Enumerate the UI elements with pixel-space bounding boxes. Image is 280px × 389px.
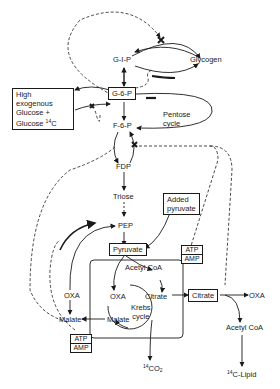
node-oxa-inner: OXA <box>110 293 126 301</box>
node-glycogen: Glycogen <box>190 56 222 64</box>
node-krebs-cycle: Krebscycle <box>131 303 151 321</box>
node-oxa-right: OXA <box>249 292 265 300</box>
atp-amp-lower: ATP AMP <box>70 334 92 353</box>
node-oxa-outer: OXA <box>64 292 80 300</box>
node-lipid: 14C-Lipid <box>227 368 256 379</box>
added-pyruvate-line-1: Added <box>167 195 189 204</box>
node-g6p-box: G-6-P <box>108 87 136 100</box>
node-pentose-cycle: Pentosecycle <box>163 110 191 128</box>
glucose-line-2: Glucose + <box>16 108 50 117</box>
node-co2: 14CO2 <box>143 362 163 374</box>
node-malate-outer: Malate <box>59 316 82 324</box>
node-pyruvate: Pyruvate <box>110 244 146 255</box>
glucose-line-1: High exogenous <box>16 90 53 108</box>
node-g1p: G-I-P <box>113 56 131 64</box>
node-acetyl-coa-mito: Acetyl CoA <box>125 264 162 272</box>
atp-amp-upper: ATP AMP <box>181 245 203 264</box>
node-malate-inner: Malate <box>107 316 130 324</box>
node-pep: PEP <box>118 222 133 230</box>
node-f6p: F-6-P <box>113 122 132 130</box>
node-triose: Triose <box>113 193 134 201</box>
added-pyruvate-line-2: pyruvate <box>167 204 196 213</box>
added-pyruvate-box: Added pyruvate <box>163 193 200 215</box>
node-citrate-cyto: Citrate <box>189 290 217 301</box>
node-g6p: G-6-P <box>109 88 135 99</box>
glucose-line-3: Glucose <box>16 119 44 128</box>
glucose-isotope-c: C <box>51 119 56 128</box>
node-fdp: FDP <box>116 163 131 171</box>
glucose-box: High exogenous Glucose + Glucose 14C <box>12 88 74 130</box>
node-citrate-inner: Citrate <box>145 293 167 301</box>
pyruvate-box: Pyruvate <box>109 243 147 256</box>
node-acetyl-coa-cyto: Acetyl CoA <box>226 324 263 332</box>
citrate-box: Citrate <box>188 289 218 302</box>
